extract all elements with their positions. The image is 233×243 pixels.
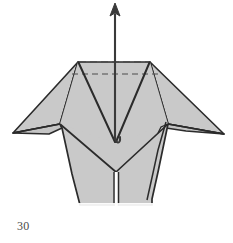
bottom-center-slit xyxy=(114,172,119,206)
origami-figure: 30 xyxy=(0,0,233,243)
step-number-caption: 30 xyxy=(17,219,30,233)
bottom-fade-mask xyxy=(0,203,233,215)
origami-diagram-svg xyxy=(0,0,233,243)
